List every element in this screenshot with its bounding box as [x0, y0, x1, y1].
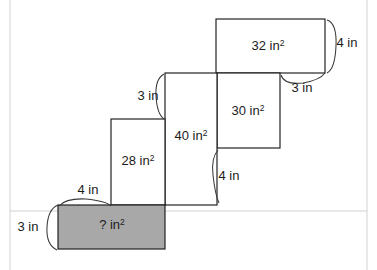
dim-3in-bottom-left: 3 in	[18, 219, 39, 234]
dim-4in-right-top: 4 in	[337, 35, 358, 50]
dim-3in-upper-left: 3 in	[138, 88, 159, 103]
dim-4in-middle-right: 4 in	[219, 168, 240, 183]
figure-canvas: 32 in230 in240 in228 in2? in2 4 in3 in3 …	[0, 0, 377, 270]
staircase-area-diagram: 32 in230 in240 in228 in2? in2 4 in3 in3 …	[0, 0, 377, 270]
brace-dim-3in-bottom-left	[47, 205, 58, 250]
dim-4in-lower-left: 4 in	[78, 182, 99, 197]
brace-dim-4in-right-top	[327, 20, 336, 73]
dim-3in-top-right: 3 in	[292, 80, 313, 95]
